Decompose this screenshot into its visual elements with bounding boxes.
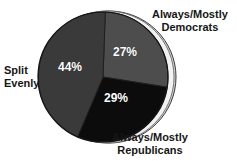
category-label-republicans: Always/Mostly Republicans	[112, 131, 188, 157]
slice-value-split-evenly: 44%	[58, 60, 82, 74]
category-label-democrats-line2: Democrats	[152, 21, 228, 34]
pie-chart-figure: 27% 29% 44% Always/Mostly Democrats Alwa…	[0, 0, 237, 161]
slice-value-democrats: 27%	[113, 45, 137, 59]
slice-value-republicans: 29%	[104, 91, 128, 105]
category-label-democrats: Always/Mostly Democrats	[152, 8, 228, 34]
pie-chart-screenshot: 27% 29% 44% Always/Mostly Democrats Alwa…	[0, 0, 237, 161]
category-label-split-evenly-line1: Split	[4, 64, 39, 77]
category-label-democrats-line1: Always/Mostly	[152, 8, 228, 21]
category-label-republicans-line1: Always/Mostly	[112, 131, 188, 144]
category-label-split-evenly-line2: Evenly	[4, 77, 39, 90]
category-label-split-evenly: Split Evenly	[4, 64, 39, 90]
category-label-republicans-line2: Republicans	[112, 144, 188, 157]
